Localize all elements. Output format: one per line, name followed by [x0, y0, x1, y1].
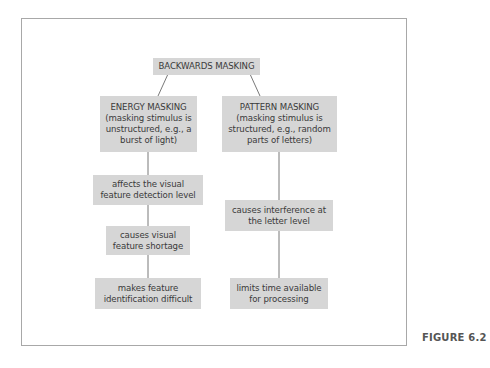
node-label: BACKWARDS MASKING: [159, 61, 255, 72]
node-makes-feature-identification-difficult: makes feature identification difficult: [95, 278, 201, 309]
node-limits-time-available: limits time available for processing: [230, 278, 328, 309]
node-title: PATTERN MASKING: [240, 102, 319, 113]
node-line: structured, e.g., random: [228, 124, 331, 135]
node-line: (masking stimulus is: [105, 113, 191, 124]
node-title: ENERGY MASKING: [110, 102, 186, 113]
node-line: unstructured, e.g., a: [106, 124, 192, 135]
node-causes-visual-feature-shortage: causes visual feature shortage: [106, 226, 190, 255]
node-line: causes interference at: [232, 205, 326, 216]
node-affects-visual-feature-detection: affects the visual feature detection lev…: [93, 175, 203, 205]
connector-root-pattern: [250, 74, 260, 96]
node-line: the letter level: [248, 216, 310, 227]
node-line: (masking stimulus is: [236, 113, 322, 124]
node-line: causes visual: [120, 230, 176, 241]
connector-root-energy: [158, 74, 168, 96]
node-line: for processing: [249, 294, 308, 305]
figure-caption: FIGURE 6.2: [422, 332, 487, 343]
node-causes-interference-letter-level: causes interference at the letter level: [225, 200, 333, 231]
node-line: burst of light): [120, 135, 177, 146]
node-pattern-masking: PATTERN MASKING (masking stimulus is str…: [222, 96, 337, 152]
node-backwards-masking: BACKWARDS MASKING: [153, 58, 260, 75]
node-line: affects the visual: [112, 179, 184, 190]
connector-lines: [0, 0, 490, 368]
node-energy-masking: ENERGY MASKING (masking stimulus is unst…: [100, 96, 197, 152]
node-line: feature shortage: [113, 241, 183, 252]
node-line: makes feature: [118, 283, 179, 294]
node-line: feature detection level: [100, 190, 195, 201]
node-line: parts of letters): [247, 135, 312, 146]
node-line: identification difficult: [104, 294, 193, 305]
node-line: limits time available: [237, 283, 322, 294]
